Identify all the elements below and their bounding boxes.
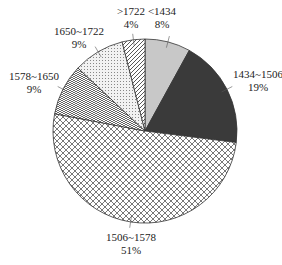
data-label: 1434~150619% xyxy=(233,68,282,94)
data-label-percent: 8% xyxy=(148,18,176,31)
data-label: 1650~17229% xyxy=(54,25,104,51)
pie-chart-svg xyxy=(0,0,282,265)
data-label-category: <1434 xyxy=(148,5,176,18)
data-label-category: 1578~1650 xyxy=(9,70,59,83)
pie-chart: <14348%1434~150619%1506~157851%1578~1650… xyxy=(0,0,282,265)
data-label: 1578~16509% xyxy=(9,70,59,96)
data-label-percent: 19% xyxy=(233,81,282,94)
data-label-category: 1650~1722 xyxy=(54,25,104,38)
data-label-category: 1506~1578 xyxy=(106,231,156,244)
data-label-category: 1434~1506 xyxy=(233,68,282,81)
data-label-percent: 9% xyxy=(54,38,104,51)
data-label-percent: 9% xyxy=(9,83,59,96)
data-label-category: >1722 xyxy=(117,5,145,18)
data-label-percent: 51% xyxy=(106,244,156,257)
data-label: 1506~157851% xyxy=(106,231,156,257)
pie-slices xyxy=(53,39,237,223)
data-label-percent: 4% xyxy=(117,18,145,31)
data-label: <14348% xyxy=(148,5,176,31)
data-label: >17224% xyxy=(117,5,145,31)
